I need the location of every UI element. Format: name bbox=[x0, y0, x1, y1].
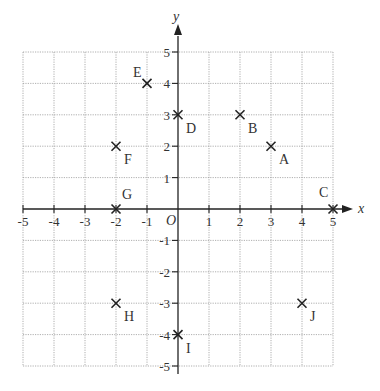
y-tick-label: 5 bbox=[164, 45, 171, 60]
x-tick-label: 5 bbox=[330, 214, 337, 229]
y-tick-label: 3 bbox=[164, 108, 171, 123]
x-tick-label: 1 bbox=[206, 214, 213, 229]
point-label: F bbox=[124, 152, 132, 167]
y-tick-label: -1 bbox=[159, 233, 170, 248]
x-tick-label: -4 bbox=[49, 214, 60, 229]
x-tick-label: -2 bbox=[111, 214, 122, 229]
x-axis-label: x bbox=[357, 201, 365, 216]
y-tick-label: -5 bbox=[159, 359, 170, 374]
origin-label: O bbox=[166, 213, 176, 228]
point-e: E bbox=[133, 65, 152, 88]
y-tick-label: 4 bbox=[164, 76, 171, 91]
x-tick-label: -3 bbox=[80, 214, 91, 229]
point-label: D bbox=[186, 121, 196, 136]
point-label: B bbox=[248, 121, 257, 136]
point-label: I bbox=[186, 341, 191, 356]
y-tick-label: -3 bbox=[159, 296, 170, 311]
y-axis-arrow-icon bbox=[174, 24, 182, 35]
plotted-points: ABCDEFGHIJ bbox=[112, 65, 338, 355]
y-tick-label: -2 bbox=[159, 265, 170, 280]
point-a: A bbox=[267, 142, 291, 168]
point-label: C bbox=[319, 185, 328, 200]
x-axis-arrow-icon bbox=[342, 205, 353, 213]
point-label: G bbox=[122, 187, 132, 202]
y-axis-label: y bbox=[171, 9, 180, 24]
point-i: I bbox=[174, 330, 192, 356]
point-label: A bbox=[279, 152, 290, 167]
point-b: B bbox=[236, 110, 258, 136]
x-tick-label: 4 bbox=[299, 214, 306, 229]
x-tick-label: 2 bbox=[237, 214, 244, 229]
x-tick-label: 3 bbox=[268, 214, 275, 229]
point-label: E bbox=[133, 65, 142, 80]
point-label: J bbox=[310, 309, 316, 324]
x-tick-label: -1 bbox=[142, 214, 153, 229]
x-tick-label: -5 bbox=[18, 214, 29, 229]
y-tick-label: 1 bbox=[164, 171, 171, 186]
y-tick-label: -4 bbox=[159, 328, 170, 343]
y-tick-label: 2 bbox=[164, 139, 171, 154]
point-f: F bbox=[112, 142, 133, 168]
point-d: D bbox=[174, 110, 197, 136]
point-j: J bbox=[298, 299, 317, 325]
coordinate-grid-chart: x y O -5-4-3-2-112345-5-4-3-2-112345 ABC… bbox=[0, 0, 380, 391]
point-h: H bbox=[112, 299, 135, 325]
point-label: H bbox=[124, 309, 134, 324]
